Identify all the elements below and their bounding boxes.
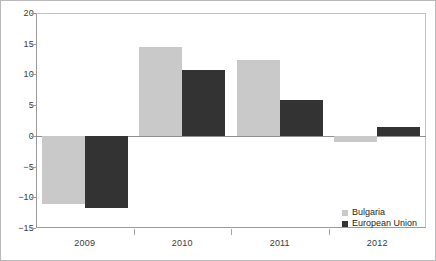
x-axis-label-2012: 2012 (329, 238, 427, 248)
bar-bulgaria-2012 (334, 136, 377, 142)
x-axis-label-2011: 2011 (231, 238, 329, 248)
y-axis-tick-label: 5 (1, 101, 34, 110)
y-axis-tick-label: 15 (1, 40, 34, 49)
bar-bulgaria-2010 (139, 47, 182, 136)
y-axis-tick-label: −10 (1, 193, 34, 202)
y-axis-tick-mark (31, 197, 36, 198)
chart-legend: BulgariaEuropean Union (342, 207, 417, 229)
bar-european-union-2012 (377, 127, 420, 136)
y-axis-tick-label: 20 (1, 9, 34, 18)
bar-european-union-2011 (280, 100, 323, 136)
y-axis-tick-label: 0 (1, 132, 34, 141)
y-axis-tick-mark (31, 228, 36, 229)
chart-figure: 20151050−5−10−15 2009201020112012 Bulgar… (0, 0, 436, 261)
y-axis-tick-mark (31, 13, 36, 14)
y-axis-tick-mark (31, 105, 36, 106)
bar-bulgaria-2009 (42, 136, 85, 204)
y-axis-tick-mark (31, 74, 36, 75)
y-axis-tick-mark (31, 167, 36, 168)
legend-item-european-union[interactable]: European Union (342, 218, 417, 229)
x-axis-tick-mark (329, 229, 330, 235)
x-axis-tick-mark (134, 229, 135, 235)
x-axis-label-2010: 2010 (134, 238, 232, 248)
y-axis-tick-mark (31, 44, 36, 45)
legend-swatch-icon (342, 221, 348, 227)
x-axis-label-2009: 2009 (36, 238, 134, 248)
bar-bulgaria-2011 (237, 60, 280, 136)
y-axis-tick-label: −15 (1, 224, 34, 233)
legend-item-bulgaria[interactable]: Bulgaria (342, 207, 417, 218)
legend-swatch-icon (342, 210, 348, 216)
y-axis-tick-label: −5 (1, 163, 34, 172)
x-axis-tick-mark (231, 229, 232, 235)
bar-european-union-2009 (85, 136, 128, 208)
legend-label: Bulgaria (352, 207, 385, 218)
bar-european-union-2010 (182, 70, 225, 136)
legend-label: European Union (352, 218, 417, 229)
y-axis-tick-label: 10 (1, 70, 34, 79)
